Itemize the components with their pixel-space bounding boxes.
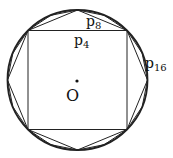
inscribed-polygons-diagram: O p8 p4 p16 bbox=[0, 0, 173, 158]
label-p8: p8 bbox=[86, 13, 101, 31]
label-p16: p16 bbox=[145, 55, 167, 73]
center-point bbox=[75, 79, 78, 82]
label-p4: p4 bbox=[74, 32, 89, 50]
center-label: O bbox=[66, 86, 79, 105]
